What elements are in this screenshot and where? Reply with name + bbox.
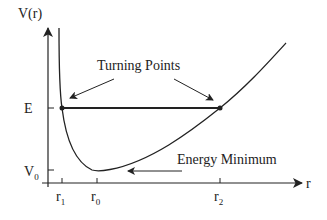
- r0-tick-label: r0: [91, 189, 101, 207]
- r1-tick-label: r1: [56, 189, 65, 207]
- r0-sub: 0: [96, 197, 101, 207]
- v0-base: V: [24, 164, 34, 179]
- turning-point-right: [218, 106, 223, 111]
- turning-points-label: Turning Points: [97, 58, 180, 73]
- potential-curve: [59, 28, 286, 171]
- e-tick-label: E: [24, 101, 33, 116]
- v0-tick-label: V0: [24, 164, 39, 182]
- potential-energy-diagram: V(r) r E V0 r1 r0 r2 Turning Points Ener…: [0, 0, 327, 220]
- turning-point-left-arrow: [70, 79, 114, 98]
- r2-sub: 2: [219, 197, 224, 207]
- r2-tick-label: r2: [214, 189, 223, 207]
- x-axis-label: r: [306, 176, 311, 191]
- energy-minimum-label: Energy Minimum: [177, 152, 277, 167]
- y-axis-label: V(r): [18, 6, 42, 22]
- v0-sub: 0: [34, 172, 39, 182]
- turning-point-right-arrow: [174, 79, 213, 100]
- r1-sub: 1: [61, 197, 66, 207]
- turning-point-left: [60, 106, 65, 111]
